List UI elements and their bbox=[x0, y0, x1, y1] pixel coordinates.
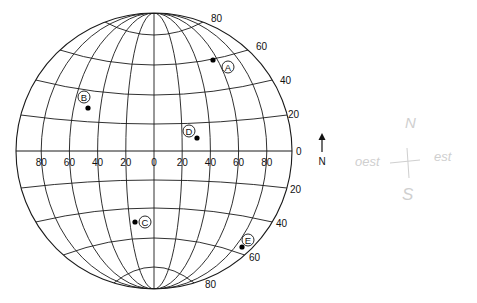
parallel-label-south: 80 bbox=[205, 279, 217, 290]
meridian-label: 60 bbox=[233, 157, 245, 168]
graticule-lines bbox=[16, 13, 292, 289]
parallel-label-south: 20 bbox=[290, 184, 302, 195]
point-label: E bbox=[245, 235, 251, 246]
handwritten-west: oest bbox=[355, 154, 381, 169]
meridian-label: 0 bbox=[151, 157, 157, 168]
point-label: C bbox=[142, 217, 149, 228]
point-dot-icon bbox=[194, 135, 199, 140]
point-e: E bbox=[239, 234, 254, 250]
point-a: A bbox=[210, 57, 234, 73]
north-arrow-icon bbox=[319, 133, 326, 140]
point-label: A bbox=[225, 62, 232, 73]
point-dot-icon bbox=[85, 105, 90, 110]
handwritten-cross-horizontal bbox=[390, 160, 420, 163]
meridian-label: 20 bbox=[177, 157, 189, 168]
globe-diagram: 8060402002040608080604020020406080 ABCDE… bbox=[0, 0, 477, 303]
globe-graticule: 8060402002040608080604020020406080 ABCDE… bbox=[0, 0, 477, 303]
handwritten-cross-vertical bbox=[407, 148, 409, 178]
point-dot-icon bbox=[210, 57, 215, 62]
meridian-label: 40 bbox=[205, 157, 217, 168]
point-b: B bbox=[78, 91, 91, 111]
handwritten-north: N bbox=[405, 114, 416, 131]
parallel-label-south: 60 bbox=[249, 252, 261, 263]
north-arrow: N bbox=[318, 133, 325, 167]
point-dot-icon bbox=[239, 244, 244, 249]
parallel-label-north: 40 bbox=[280, 75, 292, 86]
parallel-label-north: 60 bbox=[256, 41, 268, 52]
handwritten-south: S bbox=[402, 185, 414, 204]
point-dot-icon bbox=[132, 219, 137, 224]
parallel-label-north: 80 bbox=[211, 13, 223, 24]
parallel-label-south: 40 bbox=[276, 218, 288, 229]
meridian-label: 60 bbox=[64, 157, 76, 168]
meridian-label: 20 bbox=[120, 157, 132, 168]
north-arrow-label: N bbox=[318, 156, 325, 167]
point-d: D bbox=[183, 125, 200, 141]
point-label: B bbox=[81, 92, 87, 103]
handwritten-east: est bbox=[434, 149, 453, 164]
parallel-label-north: 20 bbox=[288, 109, 300, 120]
equator-label: 0 bbox=[296, 146, 302, 157]
handwritten-compass: N oest est S bbox=[355, 114, 453, 204]
point-label: D bbox=[186, 126, 193, 137]
meridian-label: 80 bbox=[36, 157, 48, 168]
point-c: C bbox=[132, 216, 151, 228]
meridian-label: 40 bbox=[92, 157, 104, 168]
meridian-label: 80 bbox=[261, 157, 273, 168]
